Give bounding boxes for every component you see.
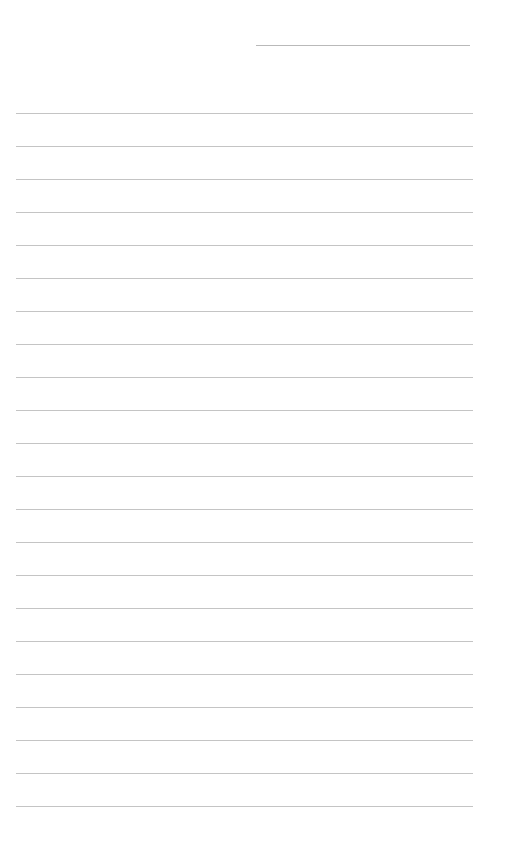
- ruled-line: [16, 674, 473, 675]
- ruled-line: [16, 113, 473, 114]
- ruled-line: [16, 509, 473, 510]
- ruled-line: [16, 278, 473, 279]
- ruled-line: [16, 443, 473, 444]
- ruled-line: [16, 707, 473, 708]
- lined-paper-sheet: [0, 0, 512, 845]
- ruled-line: [16, 179, 473, 180]
- ruled-line: [16, 542, 473, 543]
- ruled-line: [16, 575, 473, 576]
- ruled-line: [16, 245, 473, 246]
- ruled-line: [16, 740, 473, 741]
- ruled-line: [16, 377, 473, 378]
- ruled-line: [16, 410, 473, 411]
- ruled-line: [16, 311, 473, 312]
- ruled-line: [16, 476, 473, 477]
- ruled-line: [16, 608, 473, 609]
- ruled-line: [16, 146, 473, 147]
- ruled-line: [16, 806, 473, 807]
- ruled-line: [16, 773, 473, 774]
- ruled-line: [16, 641, 473, 642]
- ruled-line: [16, 344, 473, 345]
- header-name-line: [256, 45, 470, 46]
- ruled-line: [16, 212, 473, 213]
